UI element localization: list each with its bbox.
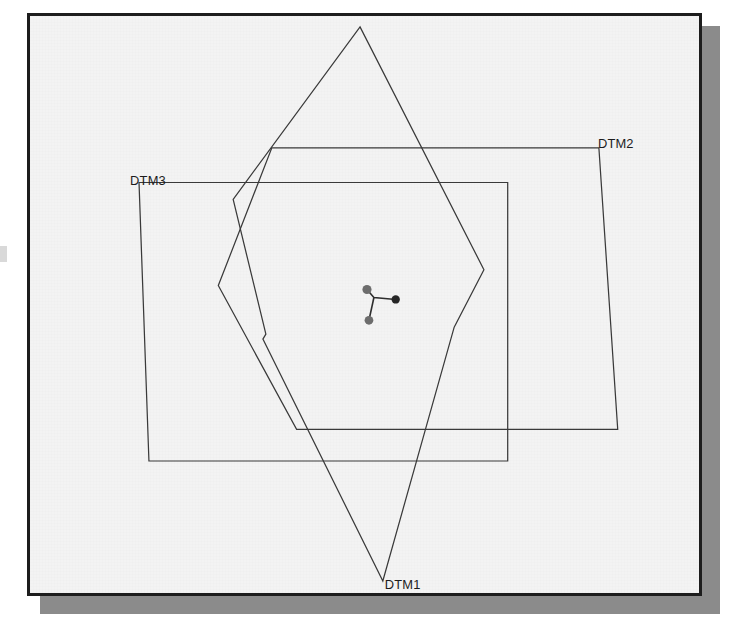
polygon-dtm1 bbox=[233, 27, 484, 581]
polygon-dtm3 bbox=[139, 183, 508, 461]
label-dtm2: DTM2 bbox=[598, 136, 634, 151]
polygon-dtm2 bbox=[218, 148, 617, 429]
label-dtm1: DTM1 bbox=[385, 577, 421, 592]
scanned-page: DTM2 DTM3 DTM1 bbox=[0, 0, 731, 638]
tripod-station-marker bbox=[362, 285, 399, 325]
label-dtm3: DTM3 bbox=[130, 173, 166, 188]
scan-artifact-mark bbox=[0, 246, 7, 262]
polygon-overlay-plot: DTM2 DTM3 DTM1 bbox=[30, 16, 699, 594]
figure-frame: DTM2 DTM3 DTM1 bbox=[27, 13, 702, 596]
